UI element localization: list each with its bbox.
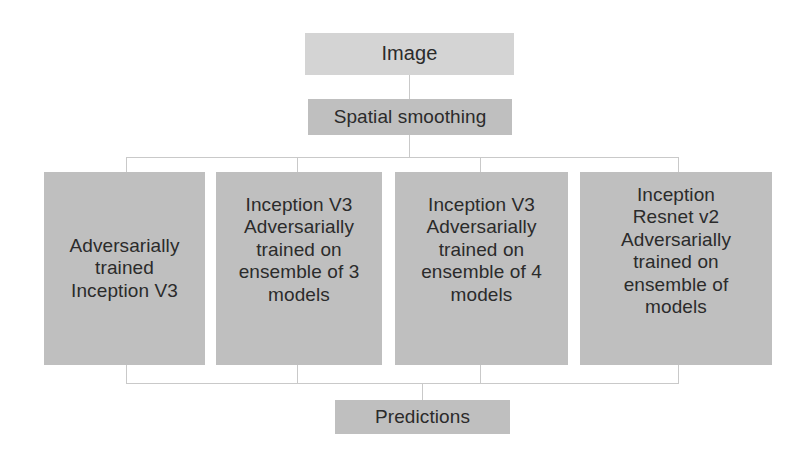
connector-rise-model-2: [297, 365, 298, 383]
connector-rise-model-4: [678, 365, 679, 383]
connector-merge-to-predictions: [422, 383, 423, 400]
connector-drop-model-3: [480, 157, 481, 172]
connector-drop-model-2: [297, 157, 298, 172]
node-image: Image: [305, 33, 514, 75]
connector-drop-model-4: [678, 157, 679, 172]
connector-image-to-smoothing: [409, 75, 410, 99]
connector-smoothing-down: [409, 135, 410, 157]
node-model-inception-v3-ensemble-3: Inception V3 Adversarially trained on en…: [216, 172, 382, 365]
flowchart-canvas: Image Spatial smoothing Adversarially tr…: [0, 0, 811, 455]
node-model-inception-resnet-v2-ensemble: Inception Resnet v2 Adversarially traine…: [580, 172, 772, 365]
connector-bottom-merge-bar: [126, 383, 679, 384]
node-model-inception-v3-ensemble-4: Inception V3 Adversarially trained on en…: [395, 172, 568, 365]
connector-drop-model-1: [126, 157, 127, 172]
connector-rise-model-1: [126, 365, 127, 383]
node-spatial-smoothing: Spatial smoothing: [308, 99, 512, 135]
connector-rise-model-3: [480, 365, 481, 383]
node-predictions: Predictions: [335, 400, 510, 434]
connector-top-distribution-bar: [126, 157, 679, 158]
node-model-adversarially-trained-inception-v3: Adversarially trained Inception V3: [44, 172, 205, 365]
